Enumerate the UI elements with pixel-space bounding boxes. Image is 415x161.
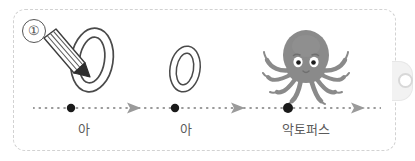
pencil-tracing-letter-icon (38, 22, 130, 102)
letter-outline-icon (153, 38, 217, 100)
stage-1-label: 아 (50, 119, 118, 138)
stage-1 (38, 22, 130, 102)
progress-timeline (33, 100, 381, 116)
stage-3 (258, 22, 354, 102)
timeline-dot-2 (171, 104, 179, 112)
stage-2-label: 아 (152, 119, 220, 138)
timeline-dot-3 (283, 103, 293, 113)
stage-3-label: 악토퍼스 (256, 119, 356, 138)
timeline-arrow-3 (351, 103, 365, 114)
octopus-icon (258, 22, 354, 106)
timeline-dot-1 (67, 104, 75, 112)
stage-2 (145, 22, 225, 102)
ring-hole-icon (398, 73, 413, 88)
pencil-icon (44, 29, 90, 77)
timeline-arrow-1 (127, 103, 141, 114)
worksheet-screenshot: ① (0, 0, 415, 161)
